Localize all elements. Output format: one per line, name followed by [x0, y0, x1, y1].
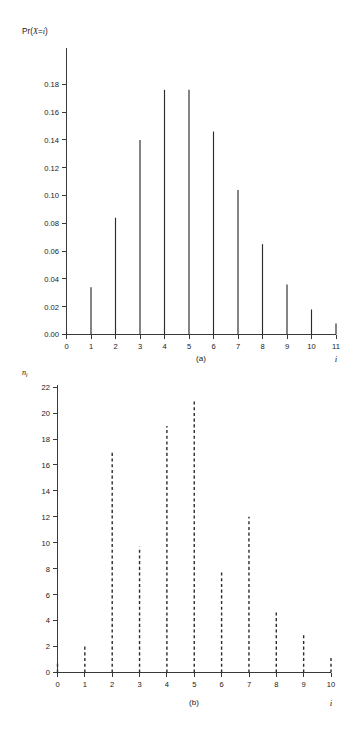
panel-b-xtick-label: 1: [83, 680, 87, 689]
panel-b-series: [58, 400, 332, 672]
panel-b-ytick-label: 12: [42, 513, 50, 522]
panel-b-xtick-label: 3: [137, 680, 141, 689]
panel-b-ytick-label: 0: [46, 668, 50, 677]
panel-b-xtick-label: 5: [192, 680, 196, 689]
panel-b-ytick-label: 4: [46, 616, 50, 625]
panel-b-plot: ni 0 2 4 6 8 10 12 1: [0, 360, 351, 730]
panel-a-ytick-label: 0.14: [44, 136, 59, 145]
panel-b-ytick-label: 14: [42, 487, 50, 496]
panel-b: ni 0 2 4 6 8 10 12 1: [0, 360, 351, 730]
panel-b-xtick-label: 6: [219, 680, 223, 689]
panel-a-xtick-label: 1: [89, 342, 93, 351]
panel-b-xtick-label: 2: [110, 680, 114, 689]
panel-a-ylabel: Pr(X=i): [22, 27, 48, 36]
panel-a-xtick-label: 11: [332, 342, 340, 351]
panel-a-x-ticks: 0 1 2 3 4 5 6 7 8 9 10: [64, 335, 340, 351]
panel-b-ylabel: ni: [22, 368, 28, 378]
panel-a: Pr(X=i) 0.00 0.02 0.04 0.06 0.08 0.10: [0, 0, 351, 365]
panel-a-xtick-label: 9: [285, 342, 289, 351]
panel-a-xtick-label: 6: [211, 342, 215, 351]
panel-b-caption: (b): [189, 698, 199, 707]
panel-b-ytick-label: 2: [46, 642, 50, 651]
panel-a-xtick-label: 5: [187, 342, 191, 351]
panel-a-ytick-label: 0.10: [44, 191, 59, 200]
panel-a-xtick-label: 2: [113, 342, 117, 351]
panel-b-ytick-label: 6: [46, 591, 50, 600]
panel-b-xtick-label: 9: [302, 680, 306, 689]
panel-b-ytick-label: 16: [42, 461, 50, 470]
panel-a-ytick-label: 0.00: [44, 330, 59, 339]
probability-figure: Pr(X=i) 0.00 0.02 0.04 0.06 0.08 0.10: [0, 0, 351, 730]
panel-a-ytick-label: 0.02: [44, 303, 59, 312]
panel-a-plot: Pr(X=i) 0.00 0.02 0.04 0.06 0.08 0.10: [0, 0, 351, 365]
panel-b-ytick-label: 22: [42, 383, 50, 392]
panel-a-xtick-label: 0: [64, 342, 68, 351]
panel-a-xtick-label: 7: [236, 342, 240, 351]
panel-a-ytick-label: 0.18: [44, 80, 59, 89]
panel-b-ytick-label: 10: [42, 539, 50, 548]
panel-b-xtick-label: 10: [327, 680, 335, 689]
panel-b-ytick-label: 20: [42, 409, 50, 418]
panel-a-ytick-label: 0.04: [44, 275, 59, 284]
panel-a-series: [67, 90, 337, 335]
panel-a-ytick-label: 0.06: [44, 247, 59, 256]
panel-b-xtick-label: 7: [247, 680, 251, 689]
panel-a-ytick-label: 0.12: [44, 164, 59, 173]
panel-b-x-ticks: 0 1 2 3 4 5 6 7 8 9 10: [55, 673, 335, 689]
panel-a-ytick-label: 0.08: [44, 219, 59, 228]
panel-a-xtick-label: 10: [307, 342, 315, 351]
panel-b-xtick-label: 4: [165, 680, 169, 689]
panel-b-xtick-label: 8: [274, 680, 278, 689]
panel-b-ytick-label: 8: [46, 565, 50, 574]
panel-a-y-ticks: 0.00 0.02 0.04 0.06 0.08 0.10 0.12 0.14 …: [44, 80, 66, 339]
panel-a-xtick-label: 3: [138, 342, 142, 351]
panel-a-ytick-label: 0.16: [44, 108, 59, 117]
panel-b-y-ticks: 0 2 4 6 8 10 12 14 16 18 20: [42, 383, 58, 677]
panel-b-ytick-label: 18: [42, 435, 50, 444]
panel-b-xlabel: i: [330, 698, 333, 708]
panel-a-xtick-label: 4: [162, 342, 166, 351]
panel-b-xtick-label: 0: [55, 680, 59, 689]
panel-a-xtick-label: 8: [260, 342, 264, 351]
